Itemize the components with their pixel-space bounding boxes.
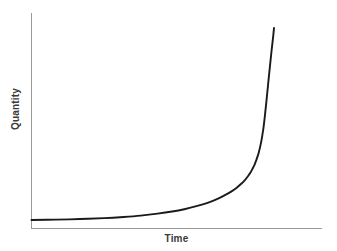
exponential-growth-chart: Quantity Time xyxy=(0,0,337,251)
chart-canvas xyxy=(0,0,337,251)
chart-background xyxy=(0,0,337,251)
